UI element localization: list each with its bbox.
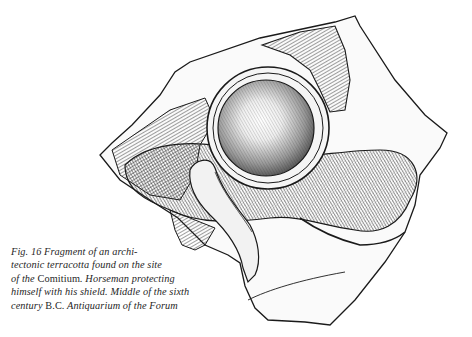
caption-line-5: century B.C. Antiquarium of the Forum [11,299,211,312]
figure-caption: Fig. 16 Fragment of an archi- tectonic t… [11,245,211,312]
caption-line-3: of the Comitium. Horseman protecting [11,272,211,285]
caption-line-2: tectonic terracotta found on the site [11,258,211,271]
caption-line-1: Fig. 16 Fragment of an archi- [11,245,211,258]
caption-line-4: himself with his shield. Middle of the s… [11,285,211,298]
